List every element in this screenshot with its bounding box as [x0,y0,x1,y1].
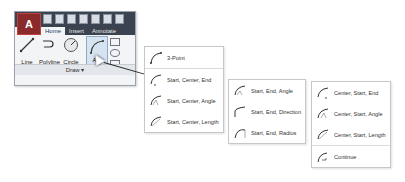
quick-access-toolbar [43,14,124,24]
menu-item-start-end-angle[interactable]: Start, End, Angle [229,80,305,101]
menu-item-start-end-direction[interactable]: Start, End, Direction [229,101,305,122]
tab-insert[interactable]: Insert [65,27,88,35]
arc-sca-icon [149,94,163,108]
arc-menu-group-3: Center, Start, End Center, Start, Angle … [311,81,391,168]
plot-icon[interactable] [91,14,100,24]
tab-home[interactable]: Home [41,27,65,35]
arc-3point-icon [149,51,163,65]
new-icon[interactable] [43,14,52,24]
menu-item-center-start-angle[interactable]: Center, Start, Angle [312,103,390,124]
arc-scl-icon [149,115,163,129]
draw-panel: Line Polyline Circle Arc Draw ▾ [15,35,135,75]
title-bar: A [15,12,135,27]
circle-icon [63,37,79,53]
menu-item-start-end-radius[interactable]: Start, End, Radius [229,122,305,143]
hatch-icon[interactable] [110,49,120,57]
ribbon-tabs: Home Insert Annotate [41,27,135,35]
undo-icon[interactable] [103,14,112,24]
polyline-tool-button[interactable]: Polyline [39,37,57,65]
arc-sea-icon [233,84,247,98]
circle-tool-button[interactable]: Circle [62,37,80,65]
redo-icon[interactable] [115,14,124,24]
arc-menu-group-2: Start, End, Angle Start, End, Direction … [228,79,306,144]
arc-continue-icon [316,150,330,164]
menu-item-center-start-end[interactable]: Center, Start, End [312,82,390,103]
arc-csa-icon [316,107,330,121]
line-icon [19,37,35,53]
open-icon[interactable] [55,14,64,24]
arc-menu-group-1: 3-Point Start, Center, End Start, Center… [144,46,224,133]
polyline-icon [40,37,56,53]
menu-item-continue[interactable]: Continue [312,145,390,167]
arc-cse-icon [316,86,330,100]
menu-item-center-start-length[interactable]: Center, Start, Length [312,124,390,145]
draw-ribbon: A Home Insert Annotate Line Polyline Cir… [14,11,136,86]
menu-item-start-center-length[interactable]: Start, Center, Length [145,111,223,132]
arc-ser-icon [233,126,247,140]
save-as-icon[interactable] [79,14,88,24]
save-icon[interactable] [67,14,76,24]
arc-csl-icon [316,128,330,142]
menu-item-start-center-end[interactable]: Start, Center, End [145,68,223,90]
application-menu-button[interactable]: A [17,13,41,35]
arc-sce-icon [149,73,163,87]
tab-annotate[interactable]: Annotate [88,27,120,35]
menu-item-3-point[interactable]: 3-Point [145,47,223,68]
menu-item-start-center-angle[interactable]: Start, Center, Angle [145,90,223,111]
rectangle-icon[interactable] [110,38,120,46]
arc-sed-icon [233,105,247,119]
line-tool-button[interactable]: Line [18,37,36,65]
